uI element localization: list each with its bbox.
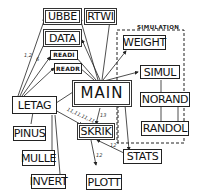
node-main[interactable]: MAIN	[72, 80, 132, 107]
edge-label-main-skrik: 13	[100, 112, 106, 118]
node-stats[interactable]: STATS	[123, 149, 162, 164]
node-readi[interactable]: READI	[50, 50, 78, 60]
node-skrik[interactable]: SKRIK	[77, 123, 115, 140]
node-data[interactable]: DATA	[43, 29, 82, 47]
edge-label-letag-data: 6	[36, 56, 39, 62]
edge-label-skrik-plott: 12	[96, 152, 102, 158]
node-pinus[interactable]: PINUS	[13, 126, 46, 141]
node-letag[interactable]: LETAG	[12, 96, 57, 114]
node-norand[interactable]: NORAND	[140, 92, 190, 107]
simulation-group-title: SIMULATION	[137, 24, 179, 30]
node-plott[interactable]: PLOTT	[86, 174, 122, 190]
node-ubbe[interactable]: UBBE	[43, 8, 82, 25]
node-weight[interactable]: WEIGHT	[123, 35, 166, 50]
node-invert[interactable]: INVERT	[31, 174, 66, 189]
node-randol[interactable]: RANDOL	[141, 121, 189, 136]
edge-label-skrik-stats: 12	[110, 142, 116, 148]
edge-label-letag-ubbe: 1,2	[24, 52, 32, 58]
node-simul[interactable]: SIMUL	[140, 65, 180, 79]
node-rtwi[interactable]: RTWI	[84, 8, 117, 25]
node-mulle[interactable]: MULLE	[22, 150, 55, 166]
node-readr[interactable]: READR	[54, 63, 82, 74]
